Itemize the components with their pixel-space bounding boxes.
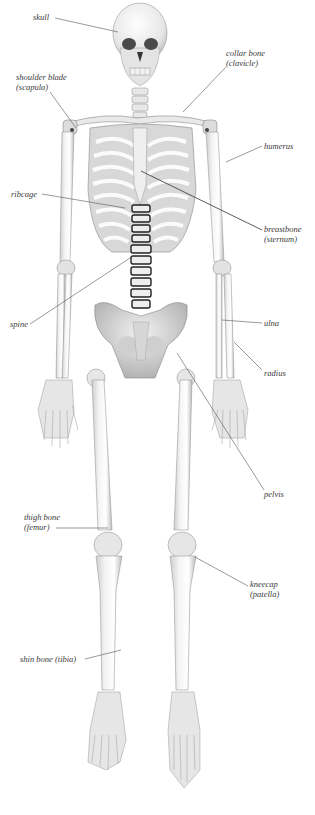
label-humerus-text: humerus (264, 141, 293, 151)
leader-collar-bone (183, 67, 226, 112)
label-shoulder-blade-text: shoulder blade (16, 72, 67, 82)
label-collar-bone-text: collar bone (226, 48, 265, 58)
label-thigh-bone: thigh bone (femur) (24, 512, 60, 532)
skeleton-illustration (0, 0, 315, 815)
label-clavicle-text: (clavicle) (226, 58, 265, 68)
left-arm (38, 132, 78, 448)
label-ribcage-text: ribcage (11, 189, 37, 199)
neck-vertebrae (132, 88, 148, 118)
pelvis-shape (95, 302, 188, 378)
label-thigh-bone-text: thigh bone (24, 512, 60, 522)
label-kneecap-text: kneecap (250, 579, 279, 589)
label-skull-text: skull (33, 12, 49, 22)
left-leg (87, 369, 126, 770)
label-pelvis-text: pelvis (264, 489, 284, 499)
label-ulna-text: ulna (264, 318, 279, 328)
label-shin-bone-text: shin bone (tibia) (20, 654, 76, 664)
label-collar-bone: collar bone (clavicle) (226, 48, 265, 68)
label-ribcage: ribcage (11, 189, 37, 199)
leader-radius (234, 342, 262, 370)
label-femur-text: (femur) (24, 522, 60, 532)
label-shoulder-blade: shoulder blade (scapula) (16, 72, 67, 92)
right-leg (168, 369, 200, 788)
label-spine-text: spine (10, 319, 28, 329)
label-shin-bone: shin bone (tibia) (20, 654, 76, 664)
spine-shape (131, 205, 151, 308)
label-radius-text: radius (264, 368, 286, 378)
label-breastbone: breastbone (sternum) (264, 224, 301, 244)
label-kneecap: kneecap (patella) (250, 579, 279, 599)
right-arm (206, 132, 248, 448)
leader-kneecap (195, 557, 248, 586)
label-sternum-text: (sternum) (264, 234, 301, 244)
label-spine: spine (10, 319, 28, 329)
skeleton-diagram: skull shoulder blade (scapula) collar bo… (0, 0, 315, 815)
label-radius: radius (264, 368, 286, 378)
leader-skull (55, 18, 118, 32)
label-pelvis: pelvis (264, 489, 284, 499)
label-skull: skull (33, 12, 49, 22)
skull-shape (113, 3, 167, 86)
label-humerus: humerus (264, 141, 293, 151)
label-ulna: ulna (264, 318, 279, 328)
ribcage-shape (88, 124, 196, 252)
label-scapula-text: (scapula) (16, 82, 67, 92)
leader-humerus (226, 146, 262, 162)
label-breastbone-text: breastbone (264, 224, 301, 234)
label-patella-text: (patella) (250, 589, 279, 599)
